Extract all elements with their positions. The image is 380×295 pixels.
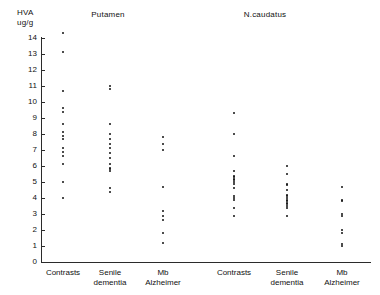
- data-point: [286, 184, 288, 186]
- data-point: [233, 215, 235, 217]
- data-point: [341, 232, 343, 234]
- chart-figure: HVA ug/g PutamenN.caudatus 0123456789101…: [0, 0, 380, 295]
- data-point: [62, 197, 64, 199]
- data-point: [109, 143, 111, 145]
- data-point: [162, 242, 164, 244]
- data-point: [109, 88, 111, 90]
- y-axis-tick-label: 0: [21, 257, 37, 266]
- data-point: [341, 229, 343, 231]
- data-point: [109, 152, 111, 154]
- data-point: [62, 135, 64, 137]
- x-axis-line: [41, 262, 371, 263]
- data-point: [62, 90, 64, 92]
- data-point: [109, 85, 111, 87]
- data-point: [162, 186, 164, 188]
- data-point: [233, 183, 235, 185]
- y-axis-tick-label: 1: [21, 241, 37, 250]
- data-point: [162, 232, 164, 234]
- data-point: [162, 215, 164, 217]
- data-point: [62, 131, 64, 133]
- y-axis-tick-label: 7: [21, 145, 37, 154]
- y-axis-tick: [41, 70, 45, 71]
- data-point: [109, 123, 111, 125]
- y-axis-tick-label: 12: [21, 65, 37, 74]
- data-point: [62, 181, 64, 183]
- y-axis-tick-label: 2: [21, 225, 37, 234]
- data-point: [162, 219, 164, 221]
- y-axis-tick: [41, 118, 45, 119]
- y-axis-tick: [41, 150, 45, 151]
- data-point: [62, 151, 64, 153]
- y-axis-tick: [41, 166, 45, 167]
- data-point: [62, 32, 64, 34]
- data-point: [62, 155, 64, 157]
- data-point: [109, 191, 111, 193]
- y-axis-tick: [41, 86, 45, 87]
- data-point: [341, 186, 343, 188]
- y-axis-tick: [41, 54, 45, 55]
- y-axis-tick-label: 4: [21, 193, 37, 202]
- data-point: [162, 210, 164, 212]
- data-point: [233, 199, 235, 201]
- data-point: [286, 173, 288, 175]
- data-point: [162, 149, 164, 151]
- x-axis-label-mb-alzheimer: Mb Alzheimer: [145, 268, 181, 287]
- data-point: [162, 143, 164, 145]
- data-point: [109, 147, 111, 149]
- data-point: [233, 155, 235, 157]
- y-axis-tick-label: 3: [21, 209, 37, 218]
- y-axis-tick-label: 14: [21, 33, 37, 42]
- y-axis-title: HVA ug/g: [17, 8, 33, 27]
- data-point: [286, 207, 288, 209]
- y-axis-tick: [41, 102, 45, 103]
- data-point: [341, 200, 343, 202]
- y-axis-tick: [41, 38, 45, 39]
- data-point: [62, 123, 64, 125]
- data-point: [109, 170, 111, 172]
- y-axis-tick-label: 11: [21, 81, 37, 90]
- data-point: [62, 107, 64, 109]
- data-point: [109, 138, 111, 140]
- x-axis-label-senile-dementia: Senile dementia: [94, 268, 127, 287]
- y-axis-tick-label: 6: [21, 161, 37, 170]
- data-point: [286, 165, 288, 167]
- y-axis-tick: [41, 198, 45, 199]
- y-axis-tick-label: 10: [21, 97, 37, 106]
- data-point: [162, 136, 164, 138]
- data-point: [62, 138, 64, 140]
- x-axis-label-mb-alzheimer: Mb Alzheimer: [324, 268, 360, 287]
- data-point: [109, 133, 111, 135]
- x-axis-label-senile-dementia: Senile dementia: [271, 268, 304, 287]
- data-point: [341, 215, 343, 217]
- x-axis-label-contrasts: Contrasts: [46, 268, 80, 278]
- y-axis-tick: [41, 182, 45, 183]
- y-axis-tick: [41, 134, 45, 135]
- data-point: [341, 245, 343, 247]
- data-point: [62, 147, 64, 149]
- data-point: [109, 187, 111, 189]
- y-axis-tick-label: 9: [21, 113, 37, 122]
- data-point: [62, 51, 64, 53]
- data-point: [62, 111, 64, 113]
- data-point: [286, 189, 288, 191]
- data-point: [233, 170, 235, 172]
- panel-title-n-caudatus: N.caudatus: [244, 10, 286, 19]
- data-point: [233, 133, 235, 135]
- x-axis-label-contrasts: Contrasts: [217, 268, 251, 278]
- y-axis-tick-label: 8: [21, 129, 37, 138]
- data-point: [233, 207, 235, 209]
- y-axis-tick: [41, 230, 45, 231]
- y-axis-tick-label: 13: [21, 49, 37, 58]
- data-point: [109, 163, 111, 165]
- panel-title-putamen: Putamen: [91, 10, 124, 19]
- data-point: [286, 215, 288, 217]
- data-point: [109, 157, 111, 159]
- data-point: [233, 112, 235, 114]
- y-axis-tick: [41, 246, 45, 247]
- data-point: [62, 163, 64, 165]
- y-axis-tick: [41, 262, 45, 263]
- y-axis-tick: [41, 214, 45, 215]
- y-axis-tick-label: 5: [21, 177, 37, 186]
- data-point: [233, 187, 235, 189]
